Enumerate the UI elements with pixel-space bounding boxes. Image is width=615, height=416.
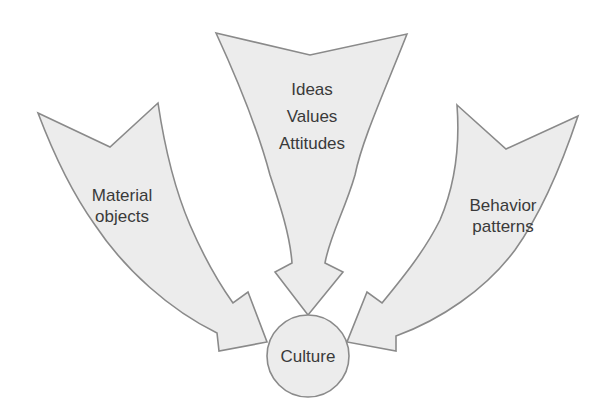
- arrow-ideas-values-attitudes: Ideas Values Attitudes: [216, 33, 407, 315]
- label-patterns: patterns: [472, 217, 533, 236]
- culture-diagram: Material objects Ideas Values Attitudes …: [0, 0, 615, 416]
- label-ideas: Ideas: [291, 80, 333, 99]
- arrow-top-shape: [216, 33, 407, 315]
- label-values: Values: [287, 107, 338, 126]
- arrow-material-objects: Material objects: [38, 103, 267, 351]
- label-culture: Culture: [281, 347, 336, 366]
- label-attitudes: Attitudes: [279, 134, 345, 153]
- arrow-right-shape: [347, 105, 578, 351]
- label-objects: objects: [95, 207, 149, 226]
- label-material: Material: [92, 186, 152, 205]
- label-behavior: Behavior: [469, 196, 536, 215]
- arrow-left-shape: [38, 103, 267, 351]
- arrow-behavior-patterns: Behavior patterns: [347, 105, 578, 351]
- node-culture: Culture: [267, 315, 349, 397]
